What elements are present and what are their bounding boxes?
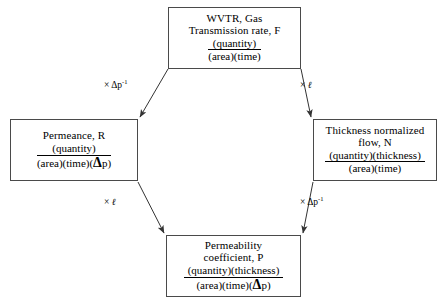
fraction-denominator: (area)(time)	[325, 162, 425, 175]
node-title: Thickness normalized flow, N	[326, 125, 425, 149]
denominator-suffix: p)	[102, 157, 111, 169]
fraction-numerator: (quantity)(thickness)	[184, 264, 284, 278]
node-permeability-coefficient: Permeability coefficient, P (quantity)(t…	[166, 235, 301, 297]
arrow-left-to-bottom	[138, 182, 164, 233]
node-title: WVTR, Gas Transmission rate, F	[189, 13, 281, 37]
node-permeance: Permeance, R (quantity) (area)(time)(Δp)	[10, 119, 138, 181]
operator-symbol: ×	[300, 197, 305, 207]
edge-label-bottom-left: × ℓ	[104, 196, 116, 208]
fraction-numerator: (quantity)	[37, 142, 111, 156]
delta-symbol: Δ	[93, 155, 102, 170]
arrow-top-to-left	[140, 69, 168, 117]
fraction-denominator: (area)(time)(Δp)	[184, 278, 284, 292]
node-title: Permeance, R	[43, 130, 105, 142]
operand-exponent: -1	[122, 78, 127, 85]
arrow-top-to-right	[301, 69, 311, 117]
fraction-numerator: (quantity)	[208, 37, 261, 51]
fraction-numerator: (quantity)(thickness)	[325, 149, 425, 163]
node-fraction: (quantity) (area)(time)(Δp)	[37, 142, 111, 170]
node-fraction: (quantity) (area)(time)	[208, 37, 261, 63]
denominator-suffix: p)	[261, 279, 270, 291]
operator-symbol: ×	[300, 80, 305, 90]
node-thickness-normalized-flow: Thickness normalized flow, N (quantity)(…	[313, 119, 437, 181]
node-fraction: (quantity)(thickness) (area)(time)	[325, 149, 425, 175]
operator-symbol: ×	[104, 80, 109, 90]
node-wvtr-gas-transmission-rate: WVTR, Gas Transmission rate, F (quantity…	[168, 7, 301, 69]
diagram-canvas: WVTR, Gas Transmission rate, F (quantity…	[0, 0, 448, 304]
node-fraction: (quantity)(thickness) (area)(time)(Δp)	[184, 264, 284, 292]
denominator-prefix: (area)(time)(	[37, 157, 93, 169]
operand-symbol: ℓ	[112, 197, 116, 207]
node-title: Permeability coefficient, P	[204, 240, 264, 264]
edge-label-top-left: × Δp-1	[104, 79, 128, 91]
fraction-denominator: (area)(time)	[208, 50, 261, 63]
operand-exponent: -1	[318, 195, 323, 202]
operand-symbol: Δp	[307, 197, 318, 207]
operand-symbol: ℓ	[308, 80, 312, 90]
operator-symbol: ×	[104, 197, 109, 207]
edge-label-bottom-right: × Δp-1	[300, 196, 324, 208]
operand-symbol: Δp	[111, 80, 122, 90]
edge-label-top-right: × ℓ	[300, 79, 312, 91]
fraction-denominator: (area)(time)(Δp)	[37, 156, 111, 170]
denominator-prefix: (area)(time)(	[196, 279, 252, 291]
